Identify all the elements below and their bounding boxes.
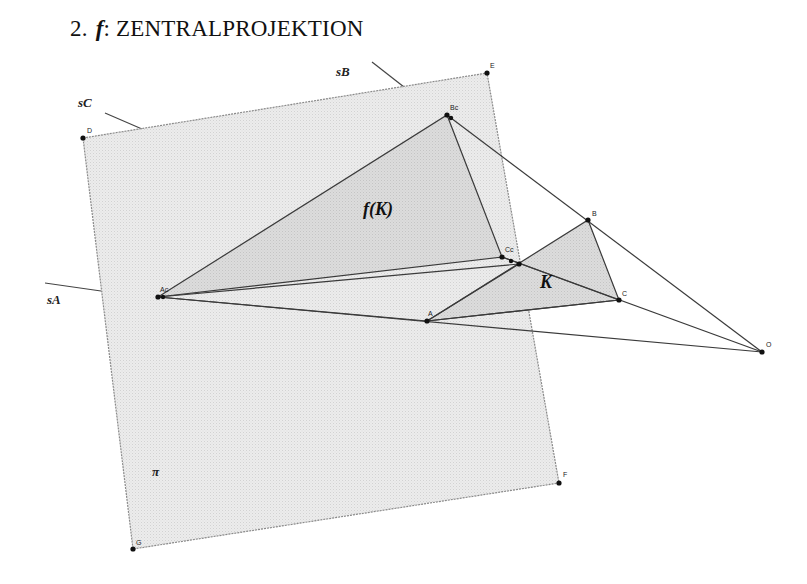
point-Bc	[444, 112, 449, 117]
point-G	[130, 546, 135, 551]
label-plane-pi: π	[152, 464, 160, 479]
label-Bc: Bc	[450, 104, 459, 111]
label-E: E	[490, 62, 495, 69]
label-sB: sB	[335, 64, 350, 79]
point-Cc	[499, 254, 504, 259]
label-O: O	[766, 341, 772, 348]
label-G: G	[136, 539, 141, 546]
point-E	[484, 70, 489, 75]
point-D	[80, 135, 85, 140]
label-C: C	[622, 290, 627, 297]
label-sA: sA	[46, 292, 61, 307]
point-Ac-2	[161, 295, 165, 299]
point-O	[759, 349, 764, 354]
point-intersection	[516, 261, 521, 266]
point-A	[424, 318, 429, 323]
point-Bc-2	[449, 116, 453, 120]
central-projection-diagram: D E F G A B C O Ac Bc Cc sA sB sC f(K) K…	[0, 0, 807, 584]
label-B: B	[592, 210, 597, 217]
point-C	[616, 297, 621, 302]
label-fK: f(K)	[363, 199, 393, 220]
label-D: D	[87, 127, 92, 134]
label-K: K	[539, 272, 554, 292]
label-F: F	[563, 471, 567, 478]
line-sA	[45, 283, 101, 291]
point-F	[556, 480, 561, 485]
point-Ac	[155, 294, 160, 299]
line-sC	[105, 113, 142, 129]
point-B	[585, 217, 590, 222]
label-sC: sC	[77, 95, 92, 110]
label-A: A	[428, 310, 433, 317]
label-Cc: Cc	[505, 246, 514, 253]
label-Ac: Ac	[160, 286, 169, 293]
line-sB	[372, 62, 404, 87]
point-Cc-2	[509, 259, 513, 263]
